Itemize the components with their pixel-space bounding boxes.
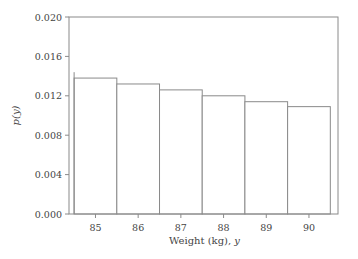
bar-89: [245, 102, 288, 214]
bars-group: [74, 78, 330, 214]
y-tick-label: 0.008: [35, 130, 62, 141]
chart: 0.0000.0040.0080.0120.0160.020 858687888…: [0, 0, 358, 259]
bar-86: [117, 84, 160, 214]
y-axis-label: p(y): [10, 105, 21, 125]
x-tick-label: 90: [303, 222, 315, 233]
y-tick-label: 0.000: [35, 209, 62, 220]
y-tick-label: 0.012: [35, 90, 62, 101]
x-tick-label: 87: [175, 222, 187, 233]
y-tick-label: 0.016: [35, 51, 62, 62]
y-tick-label: 0.004: [35, 169, 62, 180]
x-axis-label-text: Weight (kg),: [169, 235, 234, 246]
x-axis-label: Weight (kg), y: [169, 235, 240, 246]
bar-90: [288, 107, 331, 214]
bar-87: [160, 90, 203, 214]
y-axis: 0.0000.0040.0080.0120.0160.020: [35, 12, 69, 220]
bar-85: [74, 78, 117, 214]
x-tick-label: 89: [260, 222, 272, 233]
x-tick-label: 88: [218, 222, 230, 233]
x-tick-label: 85: [89, 222, 101, 233]
bar-88: [202, 96, 245, 214]
y-tick-label: 0.020: [35, 12, 62, 23]
x-tick-label: 86: [132, 222, 144, 233]
x-axis: 858687888990: [89, 214, 315, 233]
x-axis-label-var: y: [233, 235, 240, 246]
